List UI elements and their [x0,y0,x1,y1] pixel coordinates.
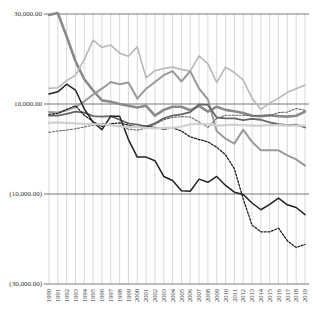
x-tick-label: 1991 [54,289,61,302]
x-tick-label: 2004 [169,288,176,302]
y-tick-label: (10,000.00) [9,190,42,198]
series-line-3 [49,71,305,165]
x-tick-label: 2008 [204,289,211,302]
x-tick-label: 2013 [248,289,255,302]
x-tick-label: 2006 [186,288,193,302]
x-tick-label: 2014 [257,288,264,302]
x-tick-label: 1992 [63,289,70,302]
x-tick-label: 1998 [116,289,123,302]
series-line-8 [49,122,305,128]
x-tick-label: 2007 [195,288,202,302]
x-tick-label: 1997 [107,288,114,302]
series-line-1 [49,13,305,117]
x-tick-label: 2005 [178,289,185,302]
y-tick-label: 30,000.00 [14,10,43,18]
x-tick-label: 2015 [266,289,273,302]
y-axis-labels: 30,000.0010,000.00(10,000.00)(30,000.00) [9,10,42,288]
x-tick-label: 2009 [213,289,220,302]
x-tick-label: 2002 [151,289,158,302]
horizontal-gridlines [44,14,309,284]
x-tick-label: 1993 [72,289,79,302]
y-tick-label: 10,000.00 [14,100,43,108]
x-tick-label: 2018 [292,289,299,302]
x-tick-label: 2003 [160,289,167,302]
x-tick-label: 2012 [239,289,246,302]
x-axis-labels: 1990199119921993199419951996199719981999… [45,288,308,302]
x-tick-label: 2001 [142,289,149,302]
x-tick-label: 2019 [301,289,308,302]
x-tick-label: 1999 [125,289,132,302]
y-tick-label: (30,000.00) [9,280,42,288]
x-tick-label: 2000 [133,289,140,302]
x-tick-label: 1990 [45,289,52,302]
data-series [49,13,305,247]
x-tick-label: 1996 [98,288,105,302]
line-chart: 30,000.0010,000.00(10,000.00)(30,000.00)… [0,0,313,315]
x-tick-label: 1995 [89,289,96,302]
x-tick-label: 1994 [81,288,88,302]
x-tick-label: 2016 [275,288,282,302]
x-tick-label: 2011 [231,289,238,302]
x-tick-label: 2010 [222,289,229,302]
x-tick-label: 2017 [284,288,291,302]
